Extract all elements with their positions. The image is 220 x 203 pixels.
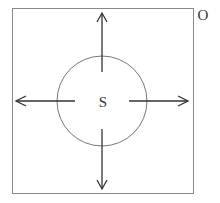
diagram: S O [0, 0, 220, 203]
arrow-right-icon [129, 96, 188, 106]
arrow-up-icon [97, 13, 107, 72]
source-label: S [99, 94, 107, 110]
corner-label: O [198, 7, 209, 23]
arrow-left-icon [16, 96, 75, 106]
arrow-down-icon [97, 129, 107, 189]
